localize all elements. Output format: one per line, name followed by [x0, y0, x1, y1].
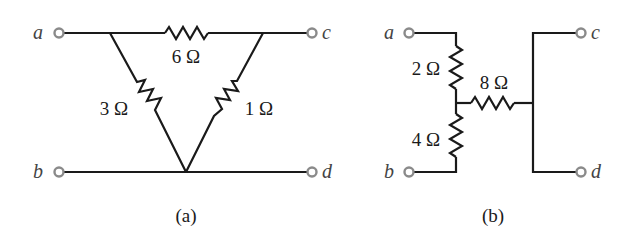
terminal-b-label: b: [384, 160, 394, 182]
terminal-b-icon: [405, 168, 414, 177]
figure-b-caption: (b): [482, 205, 504, 227]
terminal-d-label: d: [322, 160, 333, 182]
terminal-a-label: a: [33, 21, 43, 43]
terminal-d-label: d: [591, 160, 602, 182]
terminal-a-icon: [405, 29, 414, 38]
terminal-d-icon: [308, 168, 317, 177]
wire-4-ohm-to-b: [414, 157, 456, 172]
wire-a-to-2-ohm: [414, 33, 456, 46]
terminal-a-icon: [55, 29, 64, 38]
figure-a-caption: (a): [175, 205, 196, 227]
resistor-8-ohm-label: 8 Ω: [480, 72, 508, 93]
figure-a-delta-network: a c b d 6 Ω 3 Ω 1 Ω (a): [33, 21, 333, 227]
terminal-c-label: c: [591, 21, 600, 43]
resistor-2-ohm: [450, 46, 462, 89]
terminal-b-label: b: [33, 160, 43, 182]
resistor-8-ohm: [471, 97, 514, 109]
resistor-4-ohm: [450, 114, 462, 157]
resistor-3-ohm-label: 3 Ω: [100, 98, 128, 119]
resistor-6-ohm: [165, 27, 208, 39]
terminal-c-icon: [308, 29, 317, 38]
terminal-c-label: c: [322, 21, 331, 43]
wire-right-bus: [533, 33, 576, 172]
terminal-a-label: a: [384, 21, 394, 43]
terminal-b-icon: [55, 168, 64, 177]
terminal-d-icon: [577, 168, 586, 177]
circuit-diagrams: a c b d 6 Ω 3 Ω 1 Ω (a) a c b d: [0, 0, 644, 250]
resistor-1-ohm-label: 1 Ω: [245, 98, 273, 119]
resistor-2-ohm-label: 2 Ω: [412, 58, 440, 79]
terminal-c-icon: [577, 29, 586, 38]
figure-b-wye-network: a c b d 2 Ω 4 Ω 8 Ω (b): [384, 21, 602, 227]
resistor-6-ohm-label: 6 Ω: [172, 46, 200, 67]
resistor-4-ohm-label: 4 Ω: [412, 129, 440, 150]
